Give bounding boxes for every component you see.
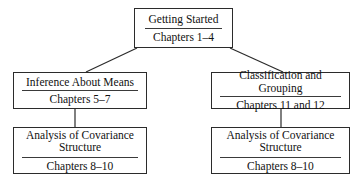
- node-inference-about-means[interactable]: Inference About Means Chapters 5–7: [13, 72, 147, 109]
- node-analysis-of-covariance-structure-right[interactable]: Analysis of Covariance Structure Chapter…: [211, 127, 350, 174]
- node-inference-about-means-divider: [22, 90, 138, 91]
- edge-getting-started-to-inference: [86, 48, 137, 72]
- node-getting-started-chapters: Chapters 1–4: [149, 31, 218, 44]
- node-classification-and-grouping-title: Classification and Grouping: [212, 69, 349, 94]
- hierarchy-diagram: Getting Started Chapters 1–4 Inference A…: [0, 0, 363, 179]
- node-analysis-of-covariance-structure-left[interactable]: Analysis of Covariance Structure Chapter…: [13, 127, 147, 174]
- node-inference-about-means-chapters: Chapters 5–7: [45, 93, 114, 106]
- node-analysis-of-covariance-structure-left-title: Analysis of Covariance Structure: [22, 129, 138, 154]
- node-getting-started-title: Getting Started: [145, 13, 223, 26]
- node-analysis-of-covariance-structure-right-chapters: Chapters 8–10: [243, 160, 318, 173]
- node-analysis-of-covariance-structure-right-divider: [220, 157, 341, 158]
- node-analysis-of-covariance-structure-left-chapters: Chapters 8–10: [43, 160, 118, 173]
- node-getting-started[interactable]: Getting Started Chapters 1–4: [134, 8, 233, 48]
- node-analysis-of-covariance-structure-left-divider: [22, 157, 138, 158]
- node-classification-and-grouping[interactable]: Classification and Grouping Chapters 11 …: [211, 72, 350, 109]
- node-classification-and-grouping-divider: [220, 96, 341, 97]
- node-getting-started-divider: [145, 28, 223, 29]
- node-analysis-of-covariance-structure-right-title: Analysis of Covariance Structure: [223, 129, 339, 154]
- node-inference-about-means-title: Inference About Means: [22, 76, 138, 89]
- node-classification-and-grouping-chapters: Chapters 11 and 12: [232, 99, 329, 112]
